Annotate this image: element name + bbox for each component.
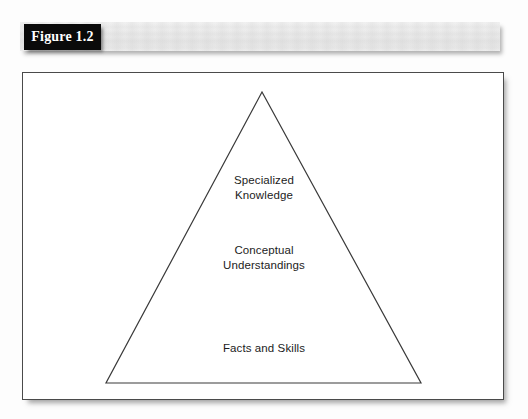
figure-page: Figure 1.2 Specialized Knowledge Concept… [0,0,528,419]
pyramid-tier-label-top: Specialized Knowledge [23,173,504,203]
figure-number-badge: Figure 1.2 [24,24,101,50]
figure-number-label: Figure 1.2 [31,30,93,44]
pyramid-outline-shape [106,92,421,383]
pyramid-tier-label-bottom: Facts and Skills [23,341,504,356]
figure-content-frame: Specialized Knowledge Conceptual Underst… [22,72,504,400]
pyramid-tier-label-middle: Conceptual Understandings [23,243,504,273]
